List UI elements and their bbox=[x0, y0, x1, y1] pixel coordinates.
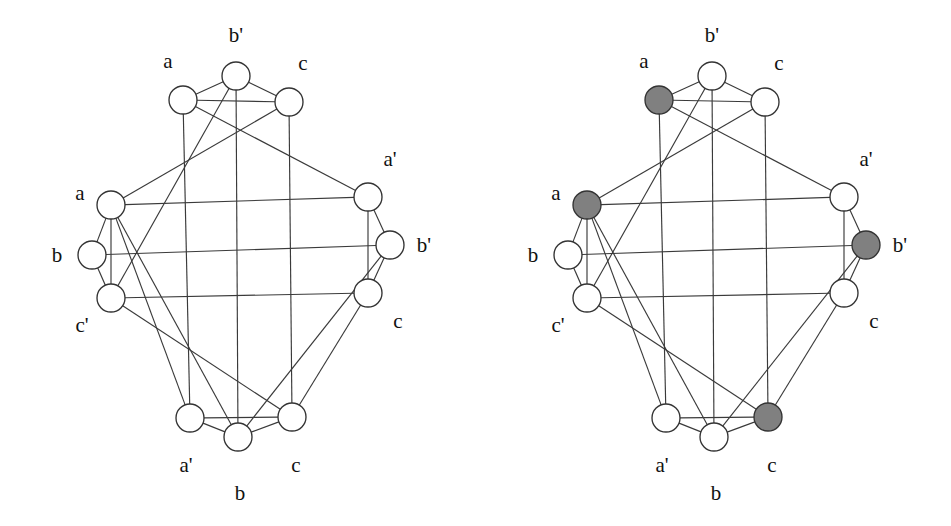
graph-edge bbox=[599, 306, 757, 410]
graph-edge bbox=[725, 82, 753, 96]
graph-svg-left: ab'cabc'a'b'ca'bc bbox=[0, 0, 475, 526]
graph-node-l_b[interactable] bbox=[78, 241, 106, 269]
graph-edge bbox=[594, 88, 705, 286]
node-label-r_bp: b' bbox=[417, 233, 431, 257]
graph-edge bbox=[712, 90, 714, 423]
graph-edge bbox=[98, 268, 106, 285]
graph-edge bbox=[204, 417, 278, 418]
node-layer-left bbox=[78, 62, 404, 451]
edge-layer-left bbox=[97, 82, 384, 432]
graph-node-t_a[interactable] bbox=[645, 86, 673, 114]
node-label-t_bp: b' bbox=[705, 23, 719, 47]
graph-edge bbox=[236, 90, 238, 423]
graph-node-r_c[interactable] bbox=[354, 279, 382, 307]
graph-node-bo_b[interactable] bbox=[700, 423, 728, 451]
graph-node-r_bp[interactable] bbox=[852, 231, 880, 259]
graph-node-l_a[interactable] bbox=[573, 191, 601, 219]
node-label-bo_ap: a' bbox=[179, 453, 192, 477]
graph-edge bbox=[850, 258, 860, 281]
graph-edge bbox=[183, 114, 189, 404]
graph-node-r_ap[interactable] bbox=[830, 183, 858, 211]
graph-node-l_a[interactable] bbox=[97, 191, 125, 219]
graph-edge bbox=[374, 210, 384, 233]
graph-node-bo_ap[interactable] bbox=[176, 404, 204, 432]
node-label-r_c: c bbox=[869, 309, 878, 333]
graph-edge bbox=[106, 245, 376, 254]
node-label-l_cp: c' bbox=[75, 313, 88, 337]
graph-edge bbox=[289, 116, 292, 403]
graph-node-l_cp[interactable] bbox=[97, 284, 125, 312]
graph-edge bbox=[574, 268, 582, 285]
node-label-r_ap: a' bbox=[383, 147, 396, 171]
graph-edge bbox=[594, 217, 708, 424]
graph-node-bo_c[interactable] bbox=[278, 403, 306, 431]
graph-node-bo_ap[interactable] bbox=[652, 404, 680, 432]
graph-edge bbox=[374, 258, 384, 281]
node-label-l_cp: c' bbox=[551, 313, 564, 337]
node-label-r_bp: b' bbox=[893, 233, 907, 257]
graph-edge bbox=[599, 109, 753, 198]
graph-panel-right: ab'cabc'a'b'ca'bc bbox=[476, 0, 951, 526]
graph-edge bbox=[116, 218, 185, 405]
graph-edge bbox=[672, 82, 700, 94]
graph-edge bbox=[251, 422, 279, 432]
node-label-l_b: b bbox=[52, 243, 63, 267]
graph-edge bbox=[125, 197, 354, 204]
graph-panel-left: ab'cabc'a'b'ca'bc bbox=[0, 0, 475, 526]
node-label-t_bp: b' bbox=[229, 23, 243, 47]
graph-edge bbox=[118, 88, 229, 286]
graph-edge bbox=[680, 417, 754, 418]
edge-layer-right bbox=[573, 82, 860, 432]
graph-node-t_bp[interactable] bbox=[222, 62, 250, 90]
figure-root: ab'cabc'a'b'ca'bc ab'cabc'a'b'ca'bc bbox=[0, 0, 951, 526]
graph-node-t_a[interactable] bbox=[169, 86, 197, 114]
graph-edge bbox=[195, 107, 355, 191]
graph-edge bbox=[123, 109, 277, 198]
graph-node-t_bp[interactable] bbox=[698, 62, 726, 90]
node-label-l_a: a bbox=[551, 181, 561, 205]
node-label-r_ap: a' bbox=[859, 147, 872, 171]
graph-edge bbox=[196, 82, 224, 94]
graph-edge bbox=[601, 197, 830, 204]
graph-edge bbox=[679, 423, 701, 432]
node-label-bo_b: b bbox=[711, 481, 722, 505]
graph-edge bbox=[671, 107, 831, 191]
node-label-t_a: a bbox=[639, 49, 649, 73]
graph-edge bbox=[727, 422, 755, 432]
node-label-bo_ap: a' bbox=[655, 453, 668, 477]
graph-edge bbox=[592, 218, 661, 405]
graph-edge bbox=[97, 218, 106, 242]
node-label-bo_c: c bbox=[291, 453, 300, 477]
node-label-t_a: a bbox=[163, 49, 173, 73]
node-label-r_c: c bbox=[393, 309, 402, 333]
node-label-l_b: b bbox=[528, 243, 539, 267]
node-label-t_c: c bbox=[774, 51, 783, 75]
graph-node-r_ap[interactable] bbox=[354, 183, 382, 211]
graph-node-bo_b[interactable] bbox=[224, 423, 252, 451]
graph-edge bbox=[123, 306, 281, 410]
node-label-bo_c: c bbox=[767, 453, 776, 477]
graph-edge bbox=[850, 210, 860, 233]
graph-node-t_c[interactable] bbox=[751, 88, 779, 116]
graph-edge bbox=[203, 423, 225, 432]
graph-svg-right: ab'cabc'a'b'ca'bc bbox=[476, 0, 951, 526]
graph-edge bbox=[249, 82, 277, 96]
graph-node-r_bp[interactable] bbox=[376, 231, 404, 259]
graph-edge bbox=[582, 245, 852, 254]
node-layer-right bbox=[554, 62, 880, 451]
graph-node-l_cp[interactable] bbox=[573, 284, 601, 312]
graph-edge bbox=[118, 217, 232, 424]
graph-node-r_c[interactable] bbox=[830, 279, 858, 307]
graph-edge bbox=[765, 116, 768, 403]
node-label-l_a: a bbox=[75, 181, 85, 205]
graph-node-bo_c[interactable] bbox=[754, 403, 782, 431]
node-label-t_c: c bbox=[298, 51, 307, 75]
graph-edge bbox=[573, 218, 582, 242]
graph-node-l_b[interactable] bbox=[554, 241, 582, 269]
graph-edge bbox=[659, 114, 665, 404]
graph-node-t_c[interactable] bbox=[275, 88, 303, 116]
node-label-bo_b: b bbox=[235, 481, 246, 505]
